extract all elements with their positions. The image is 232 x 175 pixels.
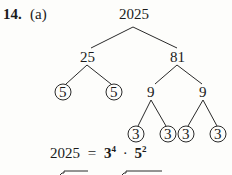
partial-radicals — [0, 0, 232, 175]
